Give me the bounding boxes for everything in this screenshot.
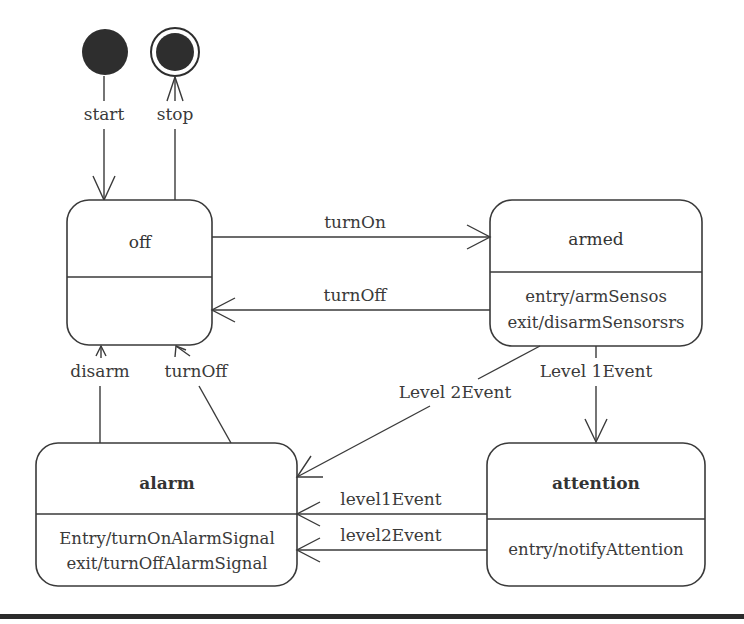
transition-label-level1event-armed: Level 1Event (540, 361, 653, 381)
transition-disarm: disarm (70, 346, 129, 443)
final-node-icon (156, 33, 194, 71)
state-action-alarm-exit: exit/turnOffAlarmSignal (66, 554, 267, 573)
transition-label-stop: stop (157, 104, 194, 124)
state-name-armed: armed (568, 229, 623, 249)
transition-off-to-stop: stop (157, 77, 194, 200)
state-armed[interactable]: armed entry/armSensos exit/disarmSensors… (490, 200, 702, 346)
final-pseudostate (151, 28, 199, 76)
transition-level1event-armed: Level 1Event (540, 346, 653, 442)
transition-turnoff-alarm: turnOff (165, 346, 231, 443)
transition-label-disarm: disarm (70, 361, 129, 381)
transition-label-level2event: level2Event (340, 525, 441, 545)
transition-start-to-off: start (84, 76, 125, 200)
transition-label-turnoff-alarm: turnOff (165, 361, 230, 381)
state-machine-diagram: start stop off armed entry/armSensos exi… (0, 0, 744, 624)
state-action-armed-entry: entry/armSensos (525, 287, 667, 306)
state-name-attention: attention (552, 473, 640, 493)
state-action-alarm-entry: Entry/turnOnAlarmSignal (59, 529, 274, 548)
transition-level2event-attention: level2Event (297, 525, 487, 562)
transition-label-turnon: turnOn (324, 212, 386, 232)
transition-label-turnoff: turnOff (324, 285, 389, 305)
transition-turnon: turnOn (212, 212, 490, 249)
transition-label-start: start (84, 104, 125, 124)
state-action-armed-exit: exit/disarmSensorsrs (507, 313, 684, 332)
state-off[interactable]: off (67, 200, 212, 345)
state-name-off: off (129, 232, 153, 252)
state-attention[interactable]: attention entry/notifyAttention (487, 443, 705, 586)
transition-label-level2event-armed: Level 2Event (399, 382, 512, 402)
arrowhead-icon (297, 456, 323, 477)
initial-pseudostate (82, 29, 128, 75)
transition-turnoff-armed: turnOff (212, 285, 490, 322)
transition-level1event-attention: level1Event (297, 489, 487, 526)
state-action-attention-entry: entry/notifyAttention (508, 540, 684, 559)
initial-node-icon (82, 29, 128, 75)
transition-label-level1event: level1Event (340, 489, 441, 509)
bottom-rule-divider (0, 614, 744, 619)
state-name-alarm: alarm (139, 473, 194, 493)
state-alarm[interactable]: alarm Entry/turnOnAlarmSignal exit/turnO… (36, 443, 297, 586)
